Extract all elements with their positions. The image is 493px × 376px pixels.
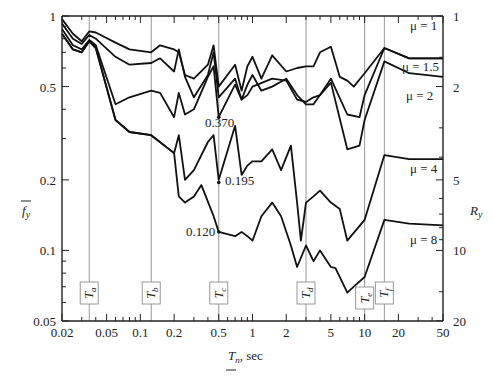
series-label: μ = 1 <box>410 18 437 33</box>
y-right-tick-label: 10 <box>453 243 466 258</box>
y-right-tick-label: 5 <box>453 173 460 188</box>
annotation-label: 0.195 <box>225 173 254 188</box>
annotation-dot <box>217 230 221 234</box>
period-markers: TaTbTcTdTeTf <box>80 16 393 321</box>
y-axis-title: fy <box>22 203 31 220</box>
y-right-axis-title: Ry <box>469 203 483 220</box>
annotation-label: 0.370 <box>205 115 234 130</box>
annotation-dot <box>217 181 221 185</box>
y-tick-label: 0.5 <box>40 80 56 95</box>
x-axis-title: Tn, sec <box>228 348 263 365</box>
x-tick-label: 0.2 <box>166 325 182 340</box>
x-tick-label: 10 <box>358 325 371 340</box>
y-right-tick-label: 2 <box>453 80 460 95</box>
x-tick-label: 1 <box>249 325 256 340</box>
curve-4 <box>62 34 443 241</box>
x-tick-label: 20 <box>392 325 405 340</box>
series-label: μ = 1.5 <box>402 59 439 74</box>
series-label: μ = 8 <box>410 232 437 247</box>
response-spectrum-chart: TaTbTcTdTeTf 0.020.050.10.20.51251020500… <box>0 0 493 376</box>
y-tick-label: 0.1 <box>40 243 56 258</box>
period-marker-label: Tc <box>210 282 228 304</box>
strength-curves <box>62 19 443 293</box>
y-right-tick-label: 1 <box>453 9 460 24</box>
x-tick-label: 0.1 <box>132 325 148 340</box>
period-marker-label: Td <box>297 282 315 304</box>
x-tick-label: 50 <box>437 325 450 340</box>
annotation-label: 0.120 <box>186 224 215 239</box>
y-tick-label: 0.2 <box>40 173 56 188</box>
x-tick-label: 0.05 <box>95 325 118 340</box>
curve-1 <box>62 19 443 91</box>
period-marker-label: Tb <box>142 282 160 304</box>
period-marker-label: Tf <box>375 282 393 304</box>
period-marker-label: Ta <box>80 282 98 304</box>
y-right-tick-label: 20 <box>453 314 466 329</box>
x-tick-label: 0.5 <box>211 325 227 340</box>
x-tick-label: 2 <box>283 325 290 340</box>
y-tick-label: 0.05 <box>33 314 56 329</box>
series-label: μ = 4 <box>410 161 438 176</box>
x-tick-label: 5 <box>328 325 335 340</box>
period-marker-label: Te <box>356 287 374 309</box>
y-tick-label: 1 <box>50 9 57 24</box>
annotations: μ = 1μ = 1.5μ = 2μ = 4μ = 80.3700.1950.1… <box>186 18 439 247</box>
curve-2 <box>62 29 443 149</box>
series-label: μ = 2 <box>406 88 433 103</box>
curve-8 <box>62 34 443 293</box>
